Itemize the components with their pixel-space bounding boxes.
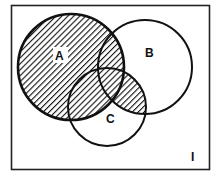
label-b: B: [145, 46, 154, 60]
label-c: C: [106, 112, 115, 126]
venn-diagram: A B C I: [0, 0, 216, 177]
label-a: A: [55, 49, 64, 63]
label-universe: I: [191, 150, 194, 164]
